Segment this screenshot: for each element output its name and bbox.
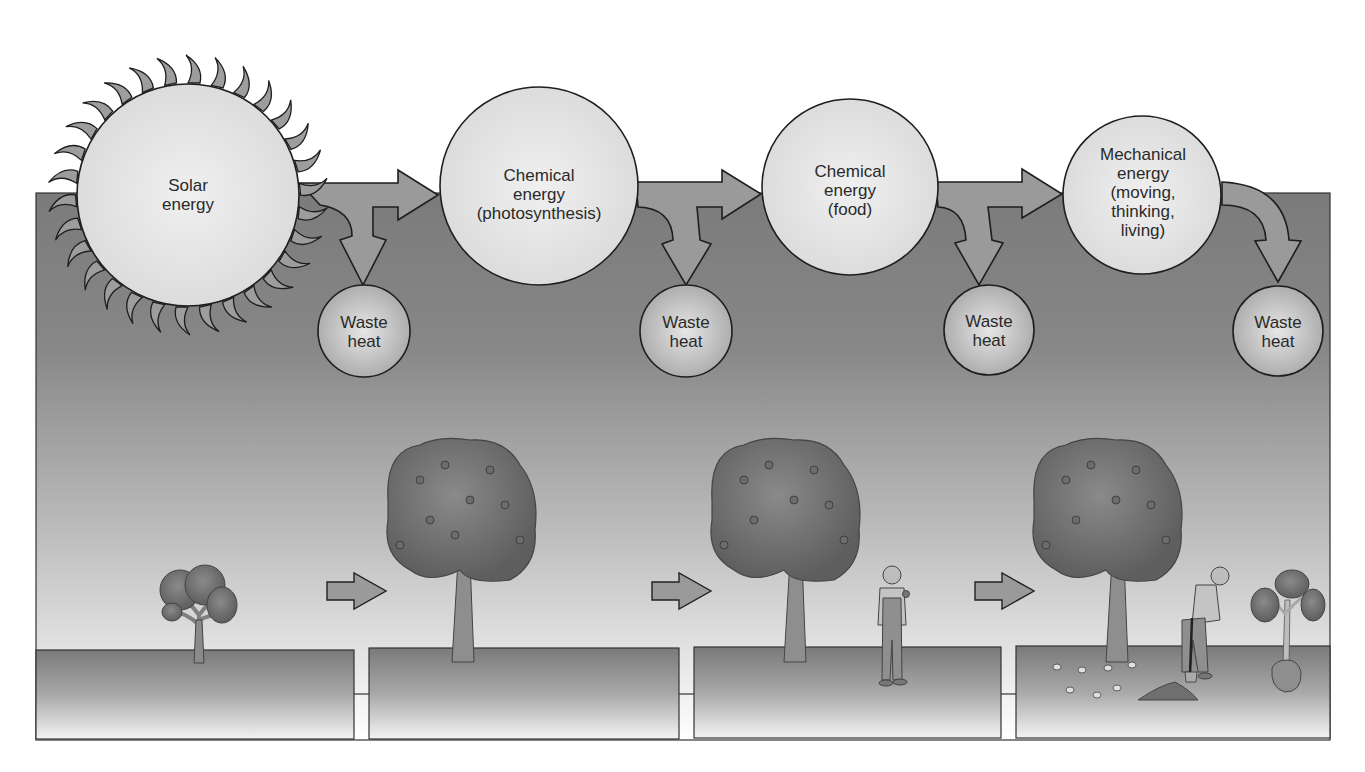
label-line: (photosynthesis) xyxy=(477,205,602,224)
ground-panel-2 xyxy=(369,648,679,739)
node-food-label: Chemical energy (food) xyxy=(815,162,886,219)
ground-panel-3 xyxy=(694,647,1001,738)
label-line: Waste xyxy=(1254,313,1302,332)
label-line: energy xyxy=(162,195,214,214)
label-line: heat xyxy=(340,332,388,351)
waste-heat-label-3: Waste heat xyxy=(965,312,1013,350)
label-line: Solar xyxy=(162,176,214,195)
label-line: energy xyxy=(815,181,886,200)
label-line: (moving, xyxy=(1100,183,1186,202)
label-line: (food) xyxy=(815,201,886,220)
label-line: Waste xyxy=(340,313,388,332)
waste-heat-label-1: Waste heat xyxy=(340,313,388,351)
label-line: energy xyxy=(1100,164,1186,183)
label-line: heat xyxy=(662,332,710,351)
label-line: Mechanical xyxy=(1100,145,1186,164)
label-line: Waste xyxy=(965,312,1013,331)
label-line: thinking, xyxy=(1100,203,1186,222)
label-line: Waste xyxy=(662,313,710,332)
label-line: energy xyxy=(477,185,602,204)
diagram-canvas xyxy=(0,0,1365,772)
label-line: heat xyxy=(1254,332,1302,351)
label-line: Chemical xyxy=(815,162,886,181)
node-solar-label: Solar energy xyxy=(162,176,214,214)
label-line: Chemical xyxy=(477,166,602,185)
energy-flow-diagram: Solar energy Chemical energy (photosynth… xyxy=(0,0,1365,772)
waste-heat-label-2: Waste heat xyxy=(662,313,710,351)
label-line: living) xyxy=(1100,222,1186,241)
node-mechanical-label: Mechanical energy (moving, thinking, liv… xyxy=(1100,145,1186,240)
waste-heat-label-4: Waste heat xyxy=(1254,313,1302,351)
label-line: heat xyxy=(965,331,1013,350)
node-photosynthesis-label: Chemical energy (photosynthesis) xyxy=(477,166,602,223)
